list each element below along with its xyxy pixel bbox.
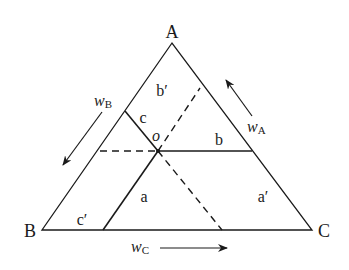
axis-label-wC-sub: C bbox=[142, 244, 149, 256]
point-label-o: o bbox=[152, 127, 160, 144]
region-label-a: a bbox=[140, 188, 147, 205]
region-label-b: b bbox=[215, 131, 223, 148]
axis-label-wB-var: w bbox=[94, 92, 105, 109]
axis-label-wC-var: w bbox=[131, 238, 142, 255]
axis-label-wC: wC bbox=[131, 238, 149, 256]
point-o bbox=[156, 149, 160, 153]
region-label-a-prime: a′ bbox=[258, 188, 269, 205]
region-label-b-prime: b′ bbox=[156, 82, 168, 99]
vertex-label-B: B bbox=[24, 221, 36, 241]
axis-label-wA-sub: A bbox=[258, 124, 266, 136]
dashed-line-o-to-BC bbox=[158, 151, 222, 230]
axis-label-wA: wA bbox=[247, 118, 266, 136]
axis-label-wA-var: w bbox=[247, 118, 258, 135]
line-o-to-BC bbox=[103, 151, 158, 230]
ternary-diagram: A B C b′ c o b a a′ c′ wB wA wC bbox=[0, 0, 349, 270]
region-label-c: c bbox=[139, 109, 146, 126]
region-label-c-prime: c′ bbox=[77, 211, 88, 228]
axis-label-wB-sub: B bbox=[105, 98, 112, 110]
arrow-wB-icon bbox=[63, 112, 102, 165]
vertex-label-A: A bbox=[166, 22, 179, 42]
vertex-label-C: C bbox=[318, 221, 330, 241]
triangle-outline bbox=[42, 43, 312, 230]
axis-label-wB: wB bbox=[94, 92, 112, 110]
arrow-wA-icon bbox=[226, 80, 252, 116]
